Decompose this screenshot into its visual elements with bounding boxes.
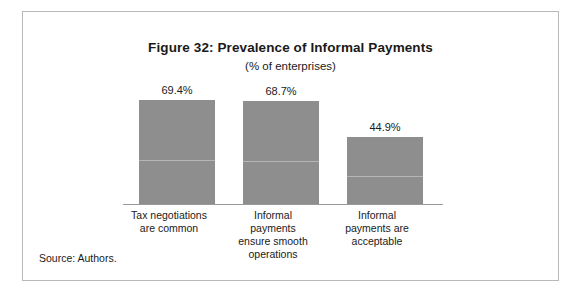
bar-rect bbox=[243, 101, 319, 204]
bar-group: 68.7% bbox=[243, 101, 319, 204]
bar-group: 44.9% bbox=[347, 137, 423, 204]
category-label-line: operations bbox=[225, 248, 321, 261]
bar-value-label: 44.9% bbox=[347, 121, 423, 137]
category-label-line: payments are bbox=[329, 222, 425, 235]
bar-rect bbox=[347, 137, 423, 204]
bar-value-label: 68.7% bbox=[243, 85, 319, 101]
category-label-line: Tax negotiations bbox=[121, 209, 217, 222]
chart-subtitle: (% of enterprises) bbox=[23, 60, 558, 72]
category-label: Tax negotiations are common bbox=[121, 209, 217, 235]
bar-rect bbox=[139, 100, 215, 204]
category-label-line: Informal bbox=[329, 209, 425, 222]
chart-title: Figure 32: Prevalence of Informal Paymen… bbox=[23, 40, 558, 55]
figure-card: Figure 32: Prevalence of Informal Paymen… bbox=[22, 11, 559, 281]
category-label: Informal payments are acceptable bbox=[329, 209, 425, 248]
category-label-line: payments bbox=[225, 222, 321, 235]
bar-group: 69.4% bbox=[139, 100, 215, 204]
bar-value-label: 69.4% bbox=[139, 84, 215, 100]
category-label-line: are common bbox=[121, 222, 217, 235]
source-note: Source: Authors. bbox=[39, 252, 117, 264]
category-label-line: acceptable bbox=[329, 235, 425, 248]
plot-area: 69.4% 68.7% 44.9% bbox=[131, 84, 431, 204]
x-axis-line bbox=[123, 204, 443, 205]
category-label-line: Informal bbox=[225, 209, 321, 222]
category-label: Informal payments ensure smooth operatio… bbox=[225, 209, 321, 261]
category-label-line: ensure smooth bbox=[225, 235, 321, 248]
